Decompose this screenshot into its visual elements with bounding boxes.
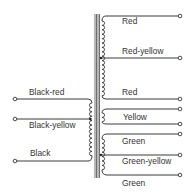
- terminal-black-yellow: [13, 117, 17, 121]
- terminal-yellow-bottom: [178, 122, 182, 126]
- terminal-green-bottom: [178, 173, 182, 177]
- terminal-red-bottom: [178, 97, 182, 101]
- label-red-bottom: Red: [122, 88, 137, 96]
- terminal-black: [13, 159, 17, 163]
- terminal-red-top: [178, 14, 182, 18]
- label-black: Black: [30, 149, 50, 157]
- label-green-yellow: Green-yellow: [122, 157, 171, 165]
- label-black-yellow: Black-yellow: [29, 121, 76, 129]
- transformer-core: [95, 14, 100, 178]
- terminal-green-yellow: [178, 153, 182, 157]
- secondary-coil-red: [100, 16, 179, 99]
- label-green-bottom: Green: [122, 179, 145, 187]
- terminal-green-top: [178, 132, 182, 136]
- label-green-top: Green: [122, 137, 145, 145]
- label-red-yellow: Red-yellow: [122, 47, 163, 55]
- terminal-black-red: [13, 97, 17, 101]
- primary-coil: [16, 99, 92, 161]
- label-black-red: Black-red: [29, 88, 64, 96]
- label-yellow: Yellow: [123, 113, 147, 121]
- terminal-red-yellow: [178, 56, 182, 60]
- terminal-yellow-top: [178, 107, 182, 111]
- label-red-top: Red: [122, 17, 137, 25]
